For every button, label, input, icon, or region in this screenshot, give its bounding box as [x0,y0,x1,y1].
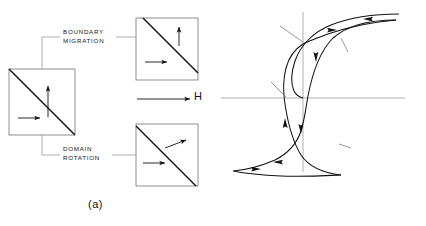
direction-marker-descending-bottom [251,167,261,172]
domain-rotation-box [136,124,198,186]
label-domain-rotation-line1: DOMAIN [63,145,100,154]
direction-marker-descending-left [283,118,288,128]
label-leaders [271,26,351,148]
label-boundary-migration-line1: BOUNDARY [63,28,104,37]
boundary-migration-box [136,18,198,80]
direction-marker-ascending-left [298,124,303,134]
panel-a-graphics [0,0,213,226]
initial-magnetization-curve [292,14,399,98]
panel-b-graphics [213,0,426,226]
label-boundary-migration-line2: MIGRATION [63,37,104,46]
label-domain-rotation: DOMAIN ROTATION [63,145,100,162]
label-domain-rotation-line2: ROTATION [63,154,100,163]
direction-marker-ascending-upper [313,52,318,62]
knee-leader [341,38,348,52]
panel-b-hysteresis-loop: Brem Hc B H KNEE OF MAGNETIZATION CURVE … [213,0,426,226]
panel-a-domain-processes: BOUNDARY MIGRATION DOMAIN ROTATION H (a) [0,0,213,226]
hysteresis-leader [339,144,351,148]
caption-panel-a: (a) [88,198,103,210]
figure-root: BOUNDARY MIGRATION DOMAIN ROTATION H (a) [0,0,426,226]
direction-marker-initial-curve [363,17,373,22]
label-boundary-migration: BOUNDARY MIGRATION [63,28,104,45]
brem-leader [280,26,303,42]
axis-label-h-panel-a: H [194,90,202,102]
initial-domain-box [9,69,75,135]
